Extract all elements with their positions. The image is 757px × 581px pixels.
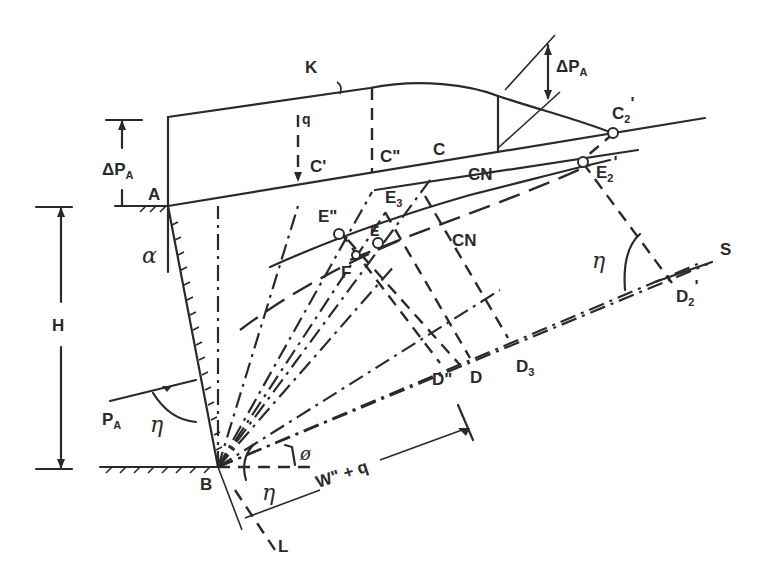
label-b: B [200, 475, 212, 494]
eta-arc [625, 234, 640, 290]
label-cn-mid: CN [452, 231, 477, 250]
surcharge-q-arrow [294, 115, 302, 182]
trial-wedge-rays [218, 176, 700, 467]
label-e: E [370, 223, 379, 239]
label-c2-prime: C2' [612, 94, 634, 125]
label-phi: ø [299, 443, 312, 464]
label-eta-left: η [150, 412, 163, 437]
height-dimension [36, 207, 72, 469]
retaining-wall [168, 206, 218, 467]
projection-lines [340, 133, 672, 365]
label-delta-pa-right: ΔPA [556, 57, 588, 78]
label-cn-top: CN [468, 165, 493, 184]
delta-pa-right-dimension [498, 35, 560, 148]
point-e2-prime [578, 157, 588, 167]
label-alpha: α [142, 243, 157, 268]
point-f [352, 251, 360, 259]
label-q: q [302, 111, 311, 127]
label-d: D [470, 368, 482, 387]
ground-surface-line [168, 118, 705, 206]
ground-hatch-a [115, 206, 168, 212]
label-a: A [148, 185, 160, 204]
label-weight-plus-q: W" + q [313, 457, 370, 492]
label-s: S [720, 240, 731, 259]
label-e2-prime: E2' [596, 153, 618, 184]
label-l: L [278, 537, 288, 556]
label-c: C [433, 140, 445, 159]
ground-hatch-b [100, 467, 310, 473]
culmann-diagram: K q C' C" C CN C2' E2' ΔPA ΔPA A B E" E … [0, 0, 757, 581]
label-d-double-prime: D" [432, 370, 452, 389]
point-c2-prime [608, 128, 618, 138]
label-e-double-prime: E" [318, 207, 337, 226]
s-line [218, 264, 708, 467]
label-eta-bottom: η [262, 480, 275, 505]
s-line-end [655, 262, 712, 282]
label-f: F [341, 263, 351, 282]
label-k: K [305, 58, 318, 77]
wall-hatching [172, 222, 222, 450]
point-e [373, 238, 383, 248]
label-c-prime: C' [310, 157, 326, 176]
label-pa: PA [102, 410, 121, 431]
label-eta-right: η [592, 248, 605, 273]
label-delta-pa-left: ΔPA [102, 160, 134, 181]
label-d3: D3 [516, 357, 534, 378]
point-e-double-prime [334, 229, 344, 239]
label-c-double-prime: C" [380, 147, 400, 166]
label-d2-prime: D2' [676, 277, 698, 308]
phi-angle-mark [285, 445, 295, 465]
label-h: H [52, 316, 64, 335]
label-e3: E3 [385, 188, 402, 209]
